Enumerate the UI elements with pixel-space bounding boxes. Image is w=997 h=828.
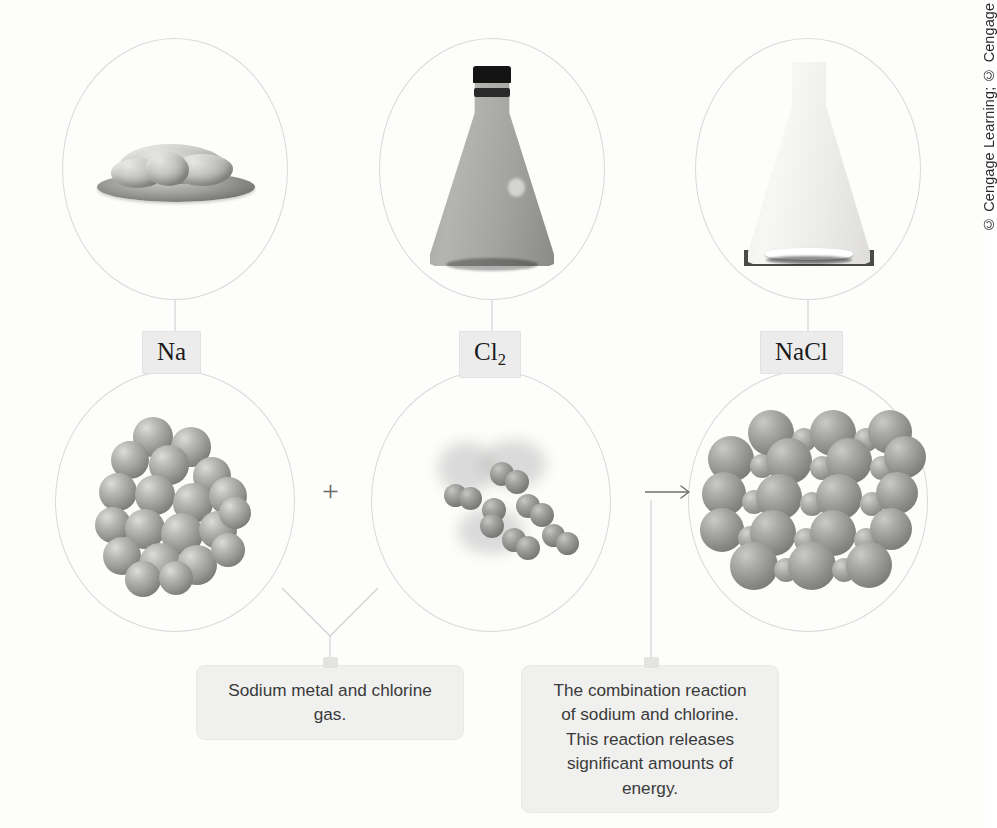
plus-operator: + (322, 476, 339, 506)
photo-sodium-metal (97, 140, 255, 202)
model-sodium-lattice (95, 415, 261, 597)
caption-line: This reaction releases (538, 727, 762, 751)
label-text-na: Na (157, 338, 186, 365)
caption-nub-reactants (323, 657, 338, 668)
caption-line: The combination reaction (538, 678, 762, 702)
connector-reactants-caption (282, 588, 330, 665)
connector-reactants-caption-right (330, 588, 378, 636)
photo-sodium-chloride-flask (748, 58, 870, 264)
label-chip-na: Na (142, 331, 201, 374)
label-text-nacl: NaCl (775, 338, 828, 365)
caption-line: significant amounts of (538, 751, 762, 775)
flask-neck-collar (474, 88, 510, 97)
caption-nub-reaction (644, 657, 659, 668)
caption-line: gas. (213, 702, 447, 726)
flask-base-shadow (766, 256, 852, 264)
caption-line: of sodium and chlorine. (538, 702, 762, 726)
flask-highlight (508, 178, 525, 197)
label-subscript-cl2: 2 (498, 350, 506, 369)
label-chip-nacl: NaCl (760, 331, 843, 374)
caption-reactants: Sodium metal and chlorine gas. (196, 665, 464, 740)
model-chlorine-molecules (424, 440, 584, 580)
sodium-chunk (145, 152, 189, 186)
model-nacl-lattice (700, 410, 916, 598)
photo-chlorine-flask (430, 66, 554, 266)
caption-line: Sodium metal and chlorine (213, 678, 447, 702)
label-chip-cl2: Cl2 (459, 331, 521, 378)
label-text-cl2: Cl (474, 338, 498, 365)
image-credit: © Cengage Learning; © Cengage Learning/M… (981, 0, 997, 232)
flask-glass-chlorine (430, 70, 554, 266)
flask-stopper (473, 66, 511, 83)
flask-glass-nacl (748, 62, 870, 264)
flask-base-shadow (446, 258, 538, 271)
caption-line: energy. (538, 776, 762, 800)
caption-reaction: The combination reaction of sodium and c… (521, 665, 779, 813)
